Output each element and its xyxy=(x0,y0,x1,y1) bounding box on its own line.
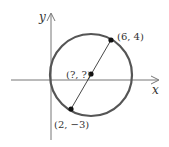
center-label: (?, ?) xyxy=(66,69,91,80)
endpoint-top-dot xyxy=(108,37,113,42)
coordinate-diagram: y x (6, 4) (?, ?) (2, −3) xyxy=(0,0,169,147)
endpoint-top-label: (6, 4) xyxy=(117,31,144,42)
endpoint-bottom-dot xyxy=(68,106,73,111)
x-axis-label: x xyxy=(152,83,159,97)
endpoint-bottom-label: (2, −3) xyxy=(54,119,89,130)
y-axis-label: y xyxy=(38,10,46,24)
diagram-canvas: y x (6, 4) (?, ?) (2, −3) xyxy=(0,0,169,147)
